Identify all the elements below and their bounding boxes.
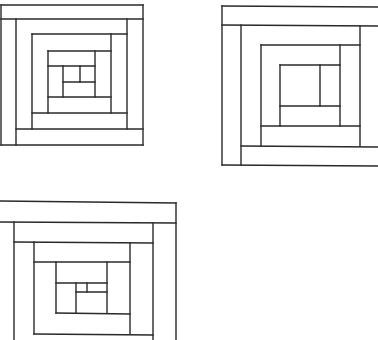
block-edge-line xyxy=(0,222,176,223)
block-edge-line xyxy=(0,201,176,203)
log-cabin-quilt-diagram xyxy=(0,0,378,340)
block-edge-line xyxy=(34,334,153,335)
quilt-block-2 xyxy=(222,6,378,166)
quilt-block-1 xyxy=(1,5,143,145)
block-edge-line xyxy=(14,242,153,243)
block-edge-line xyxy=(222,165,378,166)
quilt-block-3 xyxy=(0,201,176,340)
block-edge-line xyxy=(222,25,378,26)
block-edge-line xyxy=(222,6,378,7)
block-edge-line xyxy=(56,313,130,314)
